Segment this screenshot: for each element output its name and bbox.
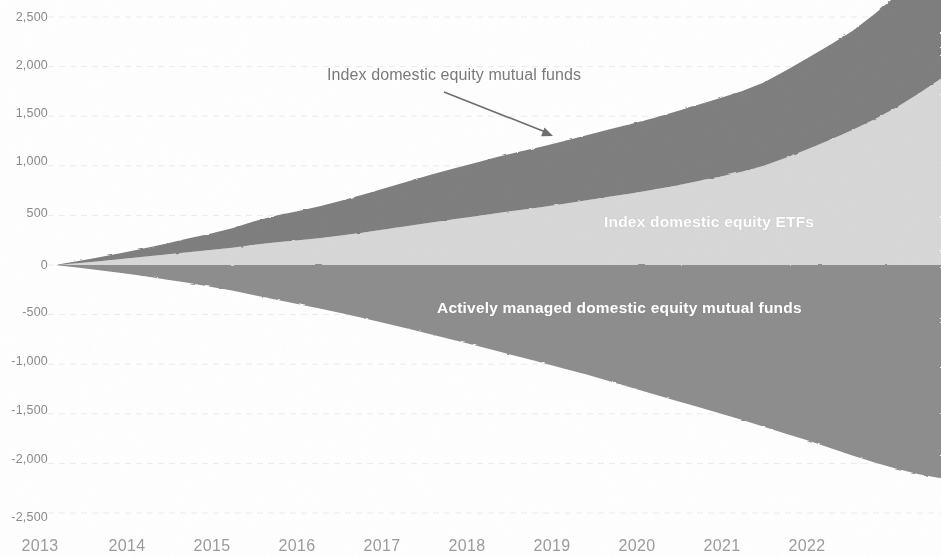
x-axis-tick-label: 2016 bbox=[267, 537, 327, 555]
x-axis-tick-label: 2013 bbox=[10, 537, 70, 555]
x-axis-tick-label: 2021 bbox=[692, 537, 752, 555]
inline-label-index-domestic-equity-etfs: Index domestic equity ETFs bbox=[604, 213, 814, 231]
annotation-index-domestic-equity-mutual-funds: Index domestic equity mutual funds bbox=[327, 66, 581, 84]
x-axis-tick-label: 2019 bbox=[522, 537, 582, 555]
x-axis-tick-label: 2014 bbox=[97, 537, 157, 555]
inline-label-actively-managed-domestic-equity-mutual-funds: Actively managed domestic equity mutual … bbox=[437, 299, 802, 317]
x-axis-tick-label: 2015 bbox=[182, 537, 242, 555]
x-axis-tick-label: 2020 bbox=[607, 537, 667, 555]
chart-container: 2,5002,0001,5001,0005000-500-1,000-1,500… bbox=[0, 0, 941, 557]
x-axis-tick-label: 2017 bbox=[352, 537, 412, 555]
x-axis-tick-label: 2022 bbox=[777, 537, 837, 555]
x-axis-tick-label: 2018 bbox=[437, 537, 497, 555]
